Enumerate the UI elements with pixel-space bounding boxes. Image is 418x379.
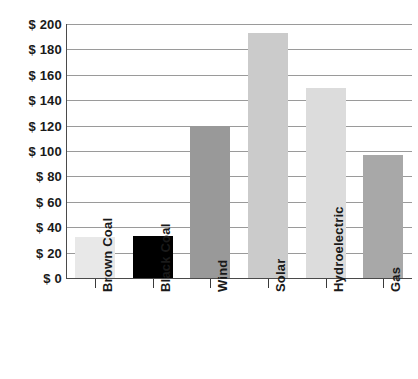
- x-axis-category-label: Black Coal: [159, 224, 172, 292]
- gridline: [66, 227, 412, 228]
- x-axis-tick: [383, 279, 384, 288]
- y-axis-tick-label: $ 160: [4, 68, 62, 81]
- x-axis-tick: [95, 279, 96, 288]
- plot-area: [66, 24, 412, 278]
- gridline: [66, 75, 412, 76]
- y-axis-tick-label: $ 0: [4, 272, 62, 285]
- y-axis-label-group: $ 200$ 180$ 160$ 140$ 120$ 100$ 80$ 60$ …: [0, 0, 62, 379]
- y-axis-tick-label: $ 80: [4, 170, 62, 183]
- y-axis-tick-label: $ 120: [4, 119, 62, 132]
- x-axis-tick: [210, 279, 211, 288]
- gridline: [66, 49, 412, 50]
- gridline: [66, 100, 412, 101]
- x-axis-tick: [268, 279, 269, 288]
- gridline: [66, 151, 412, 152]
- y-axis-tick-label: $ 100: [4, 145, 62, 158]
- gridline: [66, 126, 412, 127]
- bar-solar: [248, 33, 288, 278]
- bar-chart: $ 200$ 180$ 160$ 140$ 120$ 100$ 80$ 60$ …: [0, 0, 418, 379]
- x-axis-tick: [326, 279, 327, 288]
- y-axis-tick-label: $ 60: [4, 195, 62, 208]
- y-axis-tick-label: $ 40: [4, 221, 62, 234]
- x-axis-category-label: Wind: [216, 260, 229, 292]
- x-axis-category-label: Gas: [389, 267, 402, 292]
- x-axis-tick: [153, 279, 154, 288]
- x-axis-baseline: [66, 278, 412, 279]
- bar-gas: [363, 155, 403, 278]
- x-axis-category-label: Hydroelectric: [332, 206, 345, 292]
- x-axis-category-label: Solar: [274, 258, 287, 292]
- gridline: [66, 24, 412, 25]
- y-axis-tick-label: $ 200: [4, 18, 62, 31]
- bar-wind: [190, 126, 230, 278]
- y-axis-line: [66, 24, 67, 279]
- y-axis-tick-label: $ 140: [4, 94, 62, 107]
- gridline: [66, 202, 412, 203]
- gridline: [66, 176, 412, 177]
- gridline: [66, 253, 412, 254]
- x-axis-category-label: Brown Coal: [101, 218, 114, 292]
- y-axis-tick-label: $ 20: [4, 246, 62, 259]
- y-axis-tick-label: $ 180: [4, 43, 62, 56]
